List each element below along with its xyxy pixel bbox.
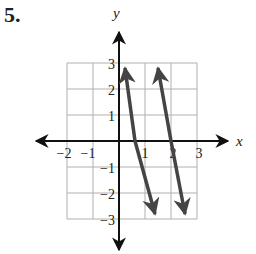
y-tick-label: −1 xyxy=(100,161,115,176)
x-axis-label: x xyxy=(235,133,243,149)
y-tick-label: 2 xyxy=(108,83,115,98)
y-tick-label: 1 xyxy=(108,109,115,124)
x-tick-label: 3 xyxy=(196,146,203,161)
x-tick-label: 1 xyxy=(142,146,149,161)
coordinate-graph: x y −2 −1 1 2 3 3 2 1 −1 −2 −3 xyxy=(0,0,256,254)
y-tick-label: 3 xyxy=(108,57,115,72)
y-tick-label: −3 xyxy=(100,213,115,228)
x-tick-label: −1 xyxy=(81,146,96,161)
x-tick-label: −2 xyxy=(57,146,72,161)
y-axis-label: y xyxy=(111,5,120,21)
y-tick-label: −2 xyxy=(100,187,115,202)
